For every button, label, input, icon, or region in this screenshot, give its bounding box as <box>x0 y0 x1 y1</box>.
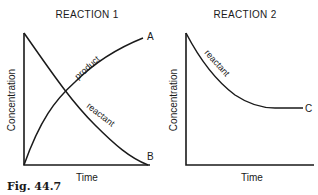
reaction-2-title: REACTION 2 <box>213 9 276 20</box>
end-label-b: B <box>147 151 154 162</box>
end-label-a: A <box>147 31 154 42</box>
reaction-1-reactant-label: reactant <box>85 101 117 129</box>
reaction-1-axes <box>24 33 150 165</box>
reaction-2-ylabel: Concentration <box>168 69 179 131</box>
reaction-1-title: REACTION 1 <box>55 9 118 20</box>
reaction-1-ylabel: Concentration <box>6 69 17 131</box>
figure-canvas: REACTION 1 product reactant A B Time Con… <box>0 0 318 195</box>
reaction-1-product-curve <box>24 38 143 165</box>
reaction-2-reactant-curve <box>186 33 303 108</box>
reaction-1-panel: REACTION 1 product reactant A B Time Con… <box>6 9 154 183</box>
reaction-2-xlabel: Time <box>241 172 263 183</box>
reaction-1-reactant-curve <box>24 33 148 165</box>
reaction-1-xlabel: Time <box>76 172 98 183</box>
figure-caption: Fig. 44.7 <box>7 180 61 193</box>
reaction-1-product-label: product <box>73 54 102 82</box>
reaction-2-panel: REACTION 2 reactant C Time Concentration <box>168 9 314 183</box>
reaction-2-reactant-label: reactant <box>203 48 233 79</box>
end-label-c: C <box>305 103 312 114</box>
